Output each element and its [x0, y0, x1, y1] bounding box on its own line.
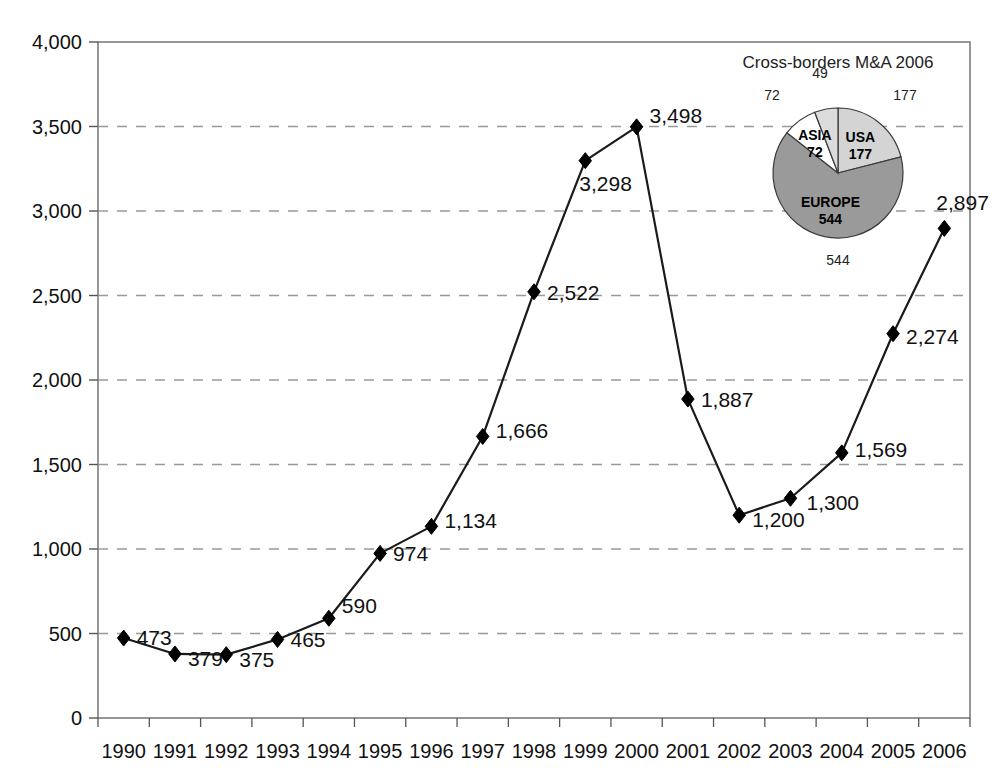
data-point-label: 465 — [291, 628, 326, 651]
data-point-label: 2,897 — [936, 191, 989, 214]
data-point-label: 473 — [137, 626, 172, 649]
x-tick-label: 2002 — [717, 740, 762, 762]
data-point-label: 590 — [342, 594, 377, 617]
data-point-label: 379 — [188, 647, 223, 670]
x-tick-label: 1993 — [255, 740, 300, 762]
y-tick-label: 2,000 — [32, 369, 82, 391]
pie-title: Cross-borders M&A 2006 — [743, 53, 934, 72]
y-tick-label: 2,500 — [32, 285, 82, 307]
pie-slice-name: EUROPE — [801, 194, 860, 210]
data-point-label: 1,569 — [855, 438, 908, 461]
line-chart-with-pie-inset: 05001,0001,5002,0002,5003,0003,5004,000 … — [0, 0, 1005, 784]
y-tick-label: 1,000 — [32, 538, 82, 560]
data-point-label: 1,200 — [752, 508, 805, 531]
y-axis-tick-labels: 05001,0001,5002,0002,5003,0003,5004,000 — [32, 31, 82, 729]
data-point-label: 1,887 — [701, 388, 754, 411]
data-point-label: 974 — [393, 542, 428, 565]
x-tick-label: 1990 — [101, 740, 146, 762]
data-point-label: 3,498 — [650, 104, 703, 127]
x-tick-label: 2006 — [922, 740, 967, 762]
x-tick-label: 2003 — [768, 740, 813, 762]
x-tick-label: 1991 — [153, 740, 198, 762]
y-tick-label: 1,500 — [32, 454, 82, 476]
y-tick-label: 0 — [71, 707, 82, 729]
pie-slice-outer-label: 49 — [812, 65, 828, 81]
y-axis-ticks — [89, 42, 98, 718]
x-tick-label: 2001 — [666, 740, 711, 762]
y-tick-label: 3,500 — [32, 116, 82, 138]
pie-slice-outer-label: 544 — [826, 252, 850, 268]
x-tick-label: 1998 — [512, 740, 557, 762]
y-tick-label: 500 — [49, 623, 82, 645]
data-point-label: 1,134 — [444, 509, 497, 532]
data-point-label: 1,666 — [496, 419, 549, 442]
data-point-label: 3,298 — [579, 172, 632, 195]
x-axis-tick-labels: 1990199119921993199419951996199719981999… — [101, 740, 966, 762]
pie-slice-value: 72 — [807, 144, 823, 160]
pie-slice-name: USA — [846, 129, 876, 145]
data-point-label: 2,274 — [906, 325, 959, 348]
x-tick-label: 1992 — [204, 740, 249, 762]
data-point-label: 375 — [239, 648, 274, 671]
x-tick-label: 2005 — [871, 740, 916, 762]
x-tick-label: 1997 — [460, 740, 505, 762]
pie-slice-outer-label: 177 — [893, 87, 917, 103]
data-point-label: 2,522 — [547, 281, 600, 304]
pie-slice-name: ASIA — [798, 127, 831, 143]
y-tick-label: 4,000 — [32, 31, 82, 53]
pie-slice-outer-label: 72 — [764, 87, 780, 103]
chart-page: 05001,0001,5002,0002,5003,0003,5004,000 … — [0, 0, 1005, 784]
x-tick-label: 1999 — [563, 740, 608, 762]
x-tick-label: 1996 — [409, 740, 454, 762]
x-tick-label: 2004 — [820, 740, 865, 762]
x-axis-ticks — [98, 718, 970, 727]
pie-slice-value: 544 — [819, 211, 843, 227]
y-tick-label: 3,000 — [32, 200, 82, 222]
x-tick-label: 1995 — [358, 740, 403, 762]
x-tick-label: 2000 — [614, 740, 659, 762]
pie-slice-value: 177 — [849, 146, 873, 162]
x-tick-label: 1994 — [307, 740, 352, 762]
data-point-label: 1,300 — [806, 491, 859, 514]
